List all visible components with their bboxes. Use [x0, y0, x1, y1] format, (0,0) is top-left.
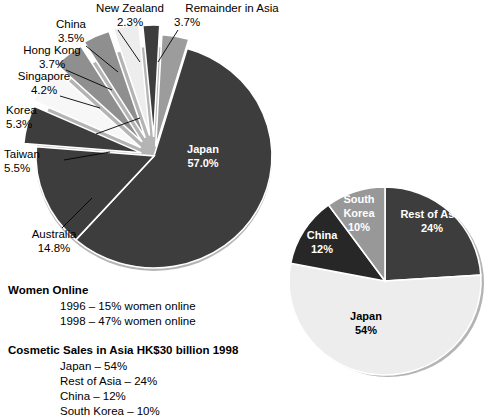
pie1-callout-china-value: 3.5%	[58, 32, 84, 44]
pie1-callout-hong-kong-name: Hong Kong	[23, 44, 81, 56]
notes-item: Japan – 54%	[60, 359, 288, 374]
pie2-rest-of-asia-value: 24%	[421, 222, 443, 234]
pie1-callout-singapore-value: 4.2%	[31, 84, 57, 96]
notes-item: South Korea – 10%	[60, 404, 288, 419]
pie1-callout-hong-kong-value: 3.7%	[39, 58, 65, 70]
pie1-callout-remainder-value: 3.7%	[174, 16, 296, 30]
pie1-callout-australia-value: 14.8%	[38, 242, 71, 254]
pie1-japan-label: Japan	[187, 143, 219, 155]
notes-panel: Women Online 1996 – 15% women online 199…	[8, 283, 288, 419]
notes-heading-cosmetic-sales: Cosmetic Sales in Asia HK$30 billion 199…	[8, 343, 288, 358]
pie2-south-korea-value: 10%	[348, 221, 370, 233]
pie2-china-value: 12%	[311, 243, 333, 255]
notes-block-women-online: Women Online 1996 – 15% women online 199…	[8, 283, 288, 329]
pie2-japan-value: 54%	[355, 324, 377, 336]
notes-heading-women-online: Women Online	[8, 283, 288, 298]
pie2-china-label: China	[307, 229, 338, 241]
notes-item: China – 12%	[60, 389, 288, 404]
pie1-callout-remainder-name: Remainder in Asia	[185, 2, 278, 14]
pie-chart-cosmetic-sales: Rest of Asia 24% South Korea 10% China 1…	[289, 187, 484, 377]
notes-item: 1998 – 47% women online	[60, 314, 288, 329]
pie1-callout-australia-name: Australia	[32, 228, 77, 240]
notes-item: 1996 – 15% women online	[60, 299, 288, 314]
pie2-south-korea-label: South	[343, 193, 374, 205]
pie1-callout-new-zealand-value: 2.3%	[117, 16, 143, 28]
pie1-callout-korea-name: Korea	[6, 104, 37, 116]
pie2-rest-of-asia-label: Rest of Asia	[400, 208, 464, 220]
pie1-callout-china-name: China	[56, 18, 86, 30]
pie1-callout-australia: Australia 14.8%	[12, 228, 96, 255]
pie1-callout-taiwan-value: 5.5%	[4, 162, 30, 174]
pie1-callout-hong-kong: Hong Kong 3.7%	[8, 44, 96, 71]
notes-item: Rest of Asia – 24%	[60, 374, 288, 389]
pie1-callout-singapore: Singapore 4.2%	[2, 70, 86, 97]
pie1-callout-taiwan: Taiwan 5.5%	[4, 148, 74, 175]
pie1-callout-china: China 3.5%	[36, 18, 106, 45]
pie1-callout-remainder: Remainder in Asia 3.7%	[168, 2, 296, 29]
pie2-south-korea-label2: Korea	[343, 207, 375, 219]
pie1-callout-singapore-name: Singapore	[18, 70, 70, 82]
pie1-japan-value: 57.0%	[187, 157, 218, 169]
pie1-callout-korea-value: 5.3%	[6, 118, 32, 130]
notes-block-cosmetic-sales: Cosmetic Sales in Asia HK$30 billion 199…	[8, 343, 288, 419]
pie2-slice-rest-of-asia	[385, 187, 481, 281]
pie2-japan-label: Japan	[350, 310, 382, 322]
pie1-callout-korea: Korea 5.3%	[6, 104, 76, 131]
pie1-callout-new-zealand-name: New Zealand	[96, 2, 164, 14]
pie1-callout-taiwan-name: Taiwan	[4, 148, 40, 160]
